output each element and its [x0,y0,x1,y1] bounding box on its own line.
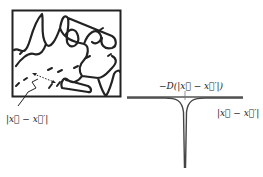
axis-label: |x⃗ − x⃗′| [217,108,259,118]
diagram-canvas [0,0,263,177]
squiggle-pointer [18,79,38,106]
separation-label: |x⃗ − x⃗′| [6,114,48,124]
polymer-chain [14,14,120,96]
arrowhead-left-icon [32,73,37,76]
separation-arrow [34,74,54,82]
curve-label: −D(|x⃗ − x⃗′|) [159,81,223,91]
